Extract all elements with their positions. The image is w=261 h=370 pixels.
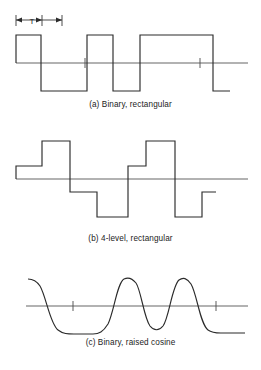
panel-a-plot: T bbox=[0, 0, 261, 100]
panel-c-caption: (c) Binary, raised cosine bbox=[0, 338, 261, 347]
figure-root: T (a) Binary, rectangular (b) 4-l bbox=[0, 0, 261, 370]
waveform-b-svg bbox=[0, 122, 261, 232]
panel-b-plot bbox=[0, 122, 261, 232]
dimension-marker-T: T bbox=[16, 15, 62, 26]
panel-b-caption: (b) 4-level, rectangular bbox=[0, 234, 261, 243]
panel-a-caption: (a) Binary, rectangular bbox=[0, 100, 261, 109]
panel-c-plot bbox=[0, 246, 261, 346]
waveform-a-svg: T bbox=[0, 0, 261, 100]
waveform-c-svg bbox=[0, 246, 261, 346]
panel-binary-rectangular: T (a) Binary, rectangular bbox=[0, 0, 261, 122]
panel-four-level-rectangular: (b) 4-level, rectangular bbox=[0, 122, 261, 246]
panel-binary-raised-cosine: (c) Binary, raised cosine bbox=[0, 246, 261, 360]
dimension-label-T: T bbox=[30, 17, 35, 26]
